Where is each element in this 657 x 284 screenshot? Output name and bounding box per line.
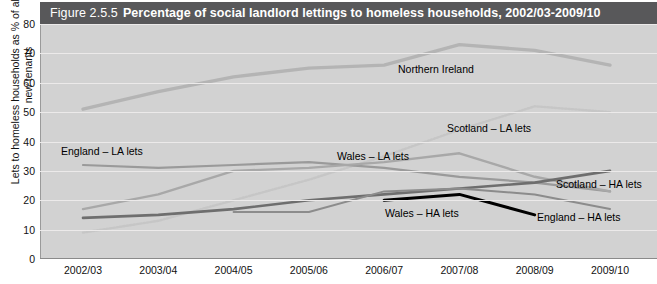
series-label-northern-ireland: Northern Ireland <box>398 64 474 75</box>
y-tick-label: 80 <box>8 19 35 30</box>
series-label-wales-ha: Wales – HA lets <box>385 208 459 219</box>
gridline <box>40 53 657 54</box>
y-tick-label: 20 <box>8 195 35 206</box>
x-axis-line <box>40 258 657 259</box>
figure-number: Figure 2.5.5 <box>50 6 118 20</box>
x-tick-label: 2003/04 <box>123 264 193 276</box>
x-tick-label: 2008/09 <box>500 264 570 276</box>
gridline <box>40 112 657 113</box>
series-label-wales-la: Wales – LA lets <box>337 151 409 162</box>
series-label-scotland-ha: Scotland – HA lets <box>556 179 642 190</box>
x-tick-label: 2007/08 <box>424 264 494 276</box>
plot-area <box>40 24 657 259</box>
series-label-england-ha: England – HA lets <box>537 212 620 223</box>
gridline <box>40 230 657 231</box>
y-tick-label: 10 <box>8 225 35 236</box>
gridline <box>40 200 657 201</box>
y-tick-label: 70 <box>8 48 35 59</box>
x-tick-label: 2002/03 <box>48 264 118 276</box>
plot-inner <box>40 24 657 259</box>
gridline <box>40 83 657 84</box>
x-tick-label: 2005/06 <box>274 264 344 276</box>
figure-container: Figure 2.5.5 Percentage of social landlo… <box>0 0 657 284</box>
gridline <box>40 24 657 25</box>
series-label-scotland-la: Scotland – LA lets <box>447 123 531 134</box>
figure-title-bar: Figure 2.5.5 Percentage of social landlo… <box>40 2 657 24</box>
y-tick-label: 30 <box>8 166 35 177</box>
x-tick-label: 2004/05 <box>199 264 269 276</box>
y-tick-label: 0 <box>8 254 35 265</box>
y-tick-label: 50 <box>8 107 35 118</box>
y-tick-label: 60 <box>8 78 35 89</box>
page-title: Percentage of social landlord lettings t… <box>123 6 601 20</box>
y-tick-label: 40 <box>8 137 35 148</box>
gridline <box>40 142 657 143</box>
x-tick-label: 2006/07 <box>349 264 419 276</box>
y-axis-title: Lets to homeless households as % of all … <box>9 0 35 185</box>
x-tick-label: 2009/10 <box>575 264 645 276</box>
gridline <box>40 171 657 172</box>
series-label-england-la: England – LA lets <box>61 146 143 157</box>
